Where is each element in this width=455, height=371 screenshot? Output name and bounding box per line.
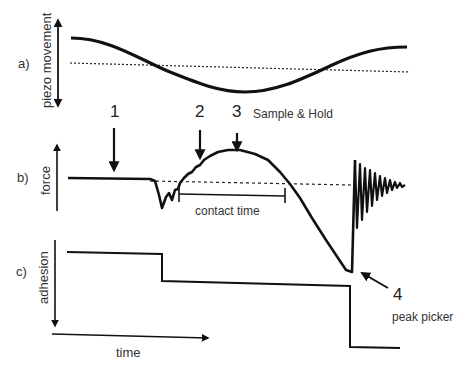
- force-axis-label: force: [38, 166, 53, 195]
- panel-b-label: b): [17, 170, 29, 185]
- adhesion-axis-label: adhesion: [36, 251, 51, 304]
- time-axis-label: time: [116, 345, 141, 360]
- panel-a-label: a): [18, 56, 30, 71]
- panel-a-piezo: [58, 20, 410, 106]
- force-measurement-diagram: [0, 0, 455, 371]
- marker-4-arrow: [362, 273, 388, 288]
- piezo-baseline-dotted: [70, 63, 410, 72]
- force-ringing: [355, 160, 405, 228]
- marker-3-number: 3: [232, 102, 241, 122]
- piezo-curve: [71, 38, 407, 92]
- marker-2-number: 2: [195, 102, 204, 122]
- contact-time-label: contact time: [195, 204, 260, 218]
- marker-4-number: 4: [393, 285, 402, 305]
- adhesion-step-line: [67, 252, 400, 348]
- marker-1-number: 1: [110, 102, 119, 122]
- contact-time-bar: [179, 194, 285, 196]
- sample-hold-caption: Sample & Hold: [253, 107, 333, 121]
- piezo-axis-label: piezo movement: [39, 13, 54, 108]
- time-axis-arrow: [52, 334, 208, 338]
- panel-c-adhesion: [52, 240, 400, 348]
- peak-picker-caption: peak picker: [392, 310, 453, 324]
- panel-c-label: c): [16, 264, 27, 279]
